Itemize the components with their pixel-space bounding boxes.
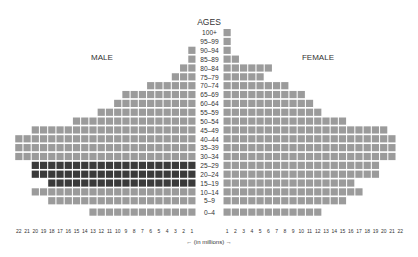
male-unit-square — [106, 153, 113, 160]
female-unit-square — [232, 162, 239, 169]
male-unit-square — [98, 144, 105, 151]
female-unit-square — [248, 126, 255, 133]
female-unit-square — [306, 162, 313, 169]
female-unit-square — [364, 162, 371, 169]
male-unit-square — [172, 135, 179, 142]
male-unit-square — [180, 73, 187, 80]
female-unit-square — [273, 135, 280, 142]
female-unit-square — [232, 153, 239, 160]
female-unit-square — [256, 179, 263, 186]
female-unit-square — [322, 153, 329, 160]
female-unit-square — [306, 179, 313, 186]
female-unit-square — [256, 197, 263, 204]
female-unit-square — [273, 188, 280, 195]
female-unit-square — [240, 197, 247, 204]
age-label: 10–14 — [200, 189, 219, 196]
x-tick-label-female: 6 — [267, 228, 270, 234]
x-tick-label-female: 16 — [348, 228, 354, 234]
male-unit-square — [147, 135, 154, 142]
male-unit-square — [114, 171, 121, 178]
female-unit-square — [265, 100, 272, 107]
x-tick-label-male: 18 — [49, 228, 55, 234]
female-unit-square — [347, 135, 354, 142]
female-unit-square — [240, 82, 247, 89]
female-unit-square — [265, 109, 272, 116]
female-unit-square — [240, 209, 247, 216]
female-unit-square — [322, 144, 329, 151]
female-unit-square — [339, 179, 346, 186]
male-unit-square — [48, 171, 55, 178]
male-unit-square — [56, 126, 63, 133]
female-unit-square — [248, 209, 255, 216]
female-unit-square — [289, 91, 296, 98]
male-unit-square — [56, 144, 63, 151]
male-unit-square — [106, 197, 113, 204]
female-unit-square — [364, 171, 371, 178]
age-label: 55–59 — [200, 109, 219, 116]
female-unit-square — [380, 126, 387, 133]
male-unit-square — [65, 171, 72, 178]
female-unit-square — [265, 153, 272, 160]
male-unit-square — [131, 109, 138, 116]
x-tick-label-female: 7 — [275, 228, 278, 234]
female-unit-square — [265, 197, 272, 204]
female-unit-square — [347, 171, 354, 178]
female-unit-square — [281, 135, 288, 142]
female-unit-square — [347, 126, 354, 133]
female-unit-square — [224, 100, 231, 107]
x-tick-label-female: 2 — [234, 228, 237, 234]
female-unit-square — [273, 126, 280, 133]
male-unit-square — [139, 135, 146, 142]
male-unit-square — [188, 82, 195, 89]
male-unit-square — [89, 126, 96, 133]
female-unit-square — [248, 135, 255, 142]
female-unit-square — [331, 179, 338, 186]
female-unit-square — [298, 162, 305, 169]
female-unit-square — [224, 73, 231, 80]
male-unit-square — [89, 209, 96, 216]
female-unit-square — [256, 118, 263, 125]
male-unit-square — [65, 162, 72, 169]
female-unit-square — [265, 188, 272, 195]
male-unit-square — [114, 153, 121, 160]
female-unit-square — [347, 153, 354, 160]
male-unit-square — [114, 209, 121, 216]
female-unit-square — [289, 118, 296, 125]
female-unit-square — [256, 144, 263, 151]
female-unit-square — [273, 109, 280, 116]
female-unit-square — [248, 118, 255, 125]
male-unit-square — [89, 171, 96, 178]
male-unit-square — [131, 144, 138, 151]
male-unit-square — [147, 209, 154, 216]
age-label: 60–64 — [200, 100, 219, 107]
female-unit-square — [339, 153, 346, 160]
female-unit-square — [240, 171, 247, 178]
male-unit-square — [164, 171, 171, 178]
male-unit-square — [114, 179, 121, 186]
male-unit-square — [139, 109, 146, 116]
male-unit-square — [172, 197, 179, 204]
female-unit-square — [248, 188, 255, 195]
male-unit-square — [122, 126, 129, 133]
male-unit-square — [188, 135, 195, 142]
male-unit-square — [180, 135, 187, 142]
female-unit-square — [281, 179, 288, 186]
age-label: 20–24 — [200, 171, 219, 178]
female-unit-square — [322, 135, 329, 142]
female-unit-square — [306, 144, 313, 151]
male-unit-square — [106, 109, 113, 116]
x-ticks: 2221201918171615141312111098765432112345… — [16, 228, 403, 234]
female-unit-square — [380, 144, 387, 151]
female-unit-square — [331, 171, 338, 178]
female-unit-square — [256, 171, 263, 178]
female-unit-square — [281, 171, 288, 178]
female-unit-square — [232, 82, 239, 89]
female-unit-square — [331, 197, 338, 204]
male-unit-square — [106, 209, 113, 216]
male-unit-square — [81, 162, 88, 169]
male-unit-square — [147, 188, 154, 195]
male-unit-square — [106, 188, 113, 195]
male-unit-square — [147, 91, 154, 98]
x-tick-label-male: 9 — [125, 228, 128, 234]
female-unit-square — [224, 38, 231, 45]
